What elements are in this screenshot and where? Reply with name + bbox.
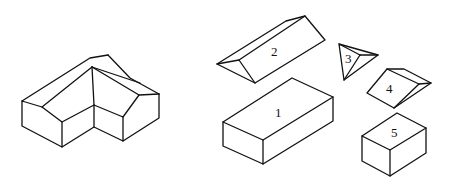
part-5-wing-box: 5 — [362, 113, 426, 176]
part-4-label: 4 — [386, 81, 393, 96]
part-5-label: 5 — [391, 125, 398, 140]
part-3-tetrahedron: 3 — [339, 44, 378, 80]
part-4-wedge: 4 — [367, 69, 431, 108]
part-2-roof-prism: 2 — [217, 16, 325, 83]
assembled-house — [22, 55, 159, 147]
diagram-canvas: 2 3 4 1 5 — [0, 0, 454, 186]
part-1-main-box: 1 — [223, 78, 333, 164]
part-2-label: 2 — [271, 44, 278, 59]
part-1-label: 1 — [275, 105, 282, 120]
part-3-label: 3 — [345, 51, 352, 66]
